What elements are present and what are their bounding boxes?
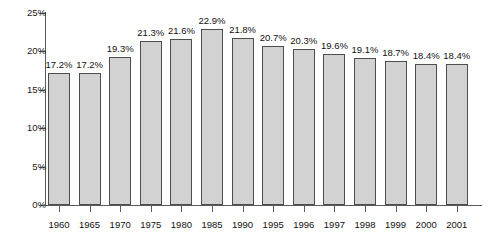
y-axis-tick-label: 0% — [12, 200, 46, 210]
x-axis-tick-mark — [457, 206, 458, 212]
bar — [79, 73, 101, 205]
y-axis-tick-label: 10% — [12, 123, 46, 133]
bar — [415, 64, 437, 205]
bar — [48, 73, 70, 205]
bar — [262, 46, 284, 205]
bar — [140, 41, 162, 205]
y-axis-line — [45, 12, 46, 206]
x-axis-tick-mark — [334, 206, 335, 212]
bar — [201, 29, 223, 205]
x-axis-tick-mark — [243, 206, 244, 212]
x-axis-tick-mark — [365, 206, 366, 212]
x-axis-tick-label: 2001 — [435, 220, 479, 230]
x-axis-tick-mark — [181, 206, 182, 212]
y-axis-tick-label: 15% — [12, 85, 46, 95]
bar-chart: 0%5%10%15%20%25% 17.2%17.2%19.3%21.3%21.… — [0, 0, 492, 242]
bar — [323, 54, 345, 205]
bar — [446, 64, 468, 205]
x-axis-tick-mark — [151, 206, 152, 212]
x-axis-tick-mark — [304, 206, 305, 212]
y-axis-tick-label: 5% — [12, 162, 46, 172]
bar — [170, 39, 192, 205]
bar — [109, 57, 131, 205]
y-axis-tick-label: 25% — [12, 8, 46, 18]
bar-value-label: 18.4% — [435, 51, 479, 61]
bar-value-label: 17.2% — [68, 60, 112, 70]
bar-value-label: 21.6% — [159, 26, 203, 36]
x-axis-line — [45, 205, 482, 206]
bar — [293, 49, 315, 205]
y-axis-tick-label: 20% — [12, 46, 46, 56]
x-axis-tick-mark — [59, 206, 60, 212]
x-axis-tick-mark — [426, 206, 427, 212]
x-axis-tick-mark — [273, 206, 274, 212]
x-axis-tick-mark — [120, 206, 121, 212]
x-axis-tick-mark — [396, 206, 397, 212]
bar-value-label: 19.3% — [98, 44, 142, 54]
x-axis-tick-mark — [212, 206, 213, 212]
bar — [354, 58, 376, 205]
bar — [385, 61, 407, 205]
bar — [232, 38, 254, 205]
x-axis-tick-mark — [90, 206, 91, 212]
